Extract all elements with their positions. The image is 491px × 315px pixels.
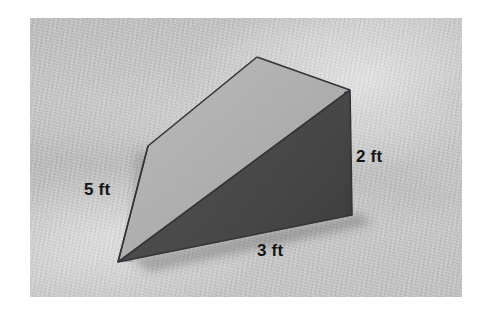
wedge-diagram [0,0,491,315]
dimension-label-2ft: 2 ft [356,147,382,167]
dimension-label-5ft: 5 ft [84,180,110,200]
figure-stage: 5 ft 2 ft 3 ft [0,0,491,315]
dimension-label-3ft: 3 ft [257,241,283,261]
